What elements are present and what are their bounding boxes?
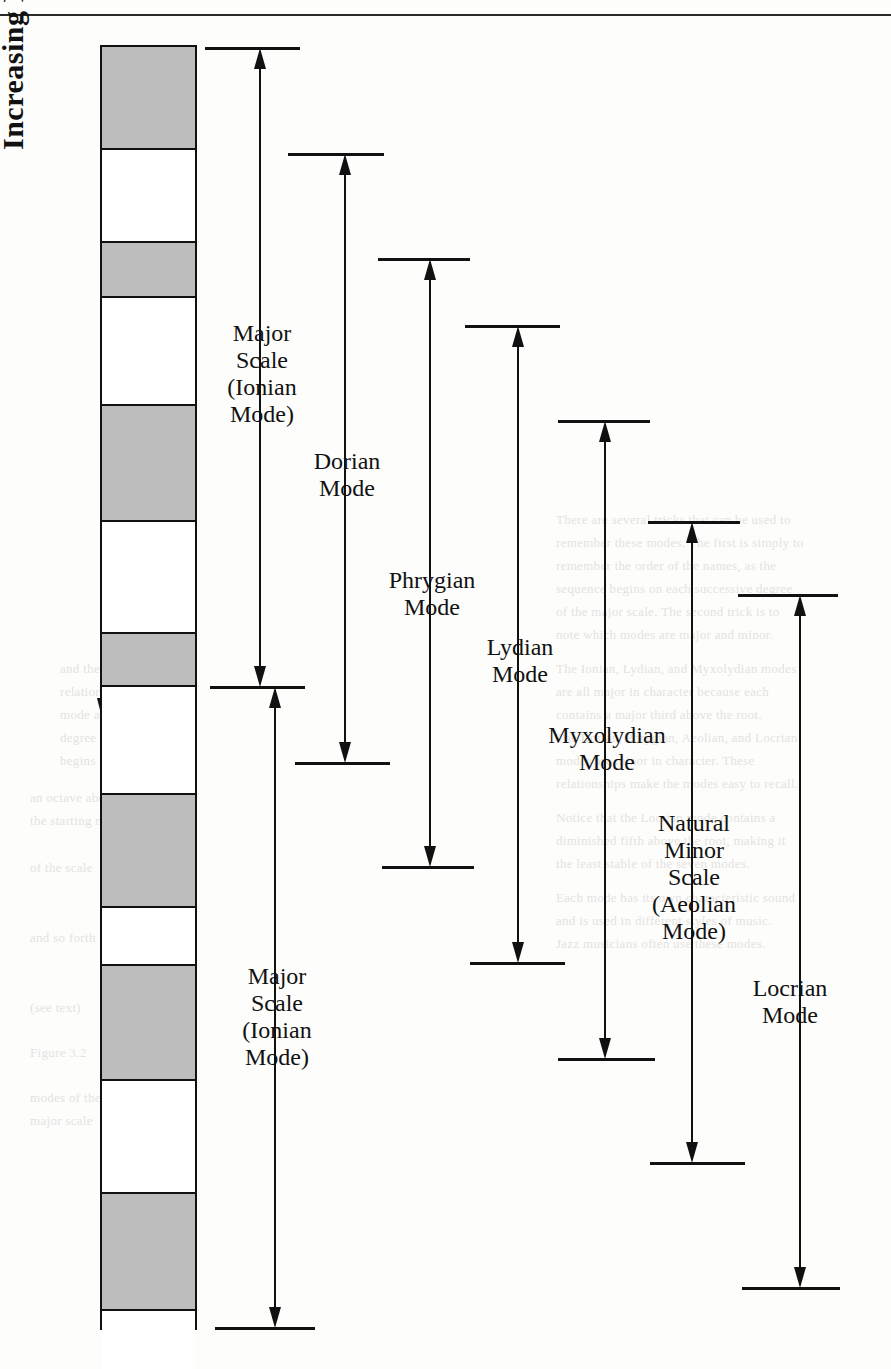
bleed-text-line: contains a major third above the root.	[556, 707, 762, 723]
mode-span-arrow	[789, 594, 811, 1289]
bleed-text-line: and so forth	[30, 930, 96, 946]
mode-label-line: Scale	[604, 864, 784, 891]
mode-label-line: Mode	[342, 594, 522, 621]
mode-label-line: (Ionian	[187, 1017, 367, 1044]
mode-label-line: Scale	[187, 990, 367, 1017]
mode-label-line: (Ionian	[172, 374, 352, 401]
mode-label-line: Scale	[172, 347, 352, 374]
ladder-segment	[102, 908, 195, 966]
ladder-segment	[102, 150, 195, 243]
mode-label: MajorScale(IonianMode)	[187, 963, 367, 1071]
mode-label: MyxolydianMode	[517, 722, 697, 776]
bleed-text-line: relationships make the modes easy to rec…	[556, 776, 798, 792]
bleed-text-line: of the major scale. The second trick is …	[556, 604, 780, 620]
mode-span-arrow	[419, 258, 441, 868]
mode-label-line: Minor	[604, 837, 784, 864]
ladder-segment	[102, 1081, 195, 1194]
bleed-text-line: (see text)	[30, 1000, 81, 1016]
bleed-text-line: modes of the	[30, 1090, 101, 1106]
mode-label-line: Mode	[700, 1002, 880, 1029]
mode-label: NaturalMinorScale(AeolianMode)	[604, 810, 784, 944]
ladder-segment	[102, 795, 195, 908]
mode-label-line: Major	[172, 320, 352, 347]
mode-label-line: Natural	[604, 810, 784, 837]
mode-label-line: Locrian	[700, 975, 880, 1002]
mode-label: MajorScale(IonianMode)	[172, 320, 352, 428]
mode-label-line: Dorian	[257, 448, 437, 475]
ladder-segment	[102, 1311, 195, 1369]
ladder-segment	[102, 687, 195, 795]
bleed-text-line: Figure 3.2	[30, 1045, 86, 1061]
mode-label-line: Mode)	[172, 401, 352, 428]
mode-label-line: Mode	[430, 661, 610, 688]
bleed-text-line: remember the order of the names, as the	[556, 558, 776, 574]
mode-top-tick	[738, 594, 838, 597]
mode-label-line: Phrygian	[342, 567, 522, 594]
mode-label: LocrianMode	[700, 975, 880, 1029]
ladder-segment	[102, 47, 195, 150]
bleed-text-line: major scale	[30, 1113, 93, 1129]
ladder-segment	[102, 1194, 195, 1311]
mode-label: DorianMode	[257, 448, 437, 502]
mode-label-line: (Aeolian	[604, 891, 784, 918]
bleed-text-line: of the scale	[30, 860, 93, 876]
pitch-axis-label: Increasing Pitch	[0, 0, 30, 150]
mode-label-line: Mode	[517, 749, 697, 776]
mode-label-line: Mode)	[604, 918, 784, 945]
mode-label-line: Myxolydian	[517, 722, 697, 749]
mode-label-line: Major	[187, 963, 367, 990]
ladder-segment	[102, 634, 195, 687]
page-rule	[0, 14, 891, 16]
pitch-ladder	[100, 45, 197, 1330]
mode-label: LydianMode	[430, 634, 610, 688]
ladder-segment	[102, 966, 195, 1081]
mode-label: PhrygianMode	[342, 567, 522, 621]
ladder-segment	[102, 522, 195, 634]
ladder-segment	[102, 243, 195, 298]
mode-label-line: Lydian	[430, 634, 610, 661]
mode-label-line: Mode)	[187, 1044, 367, 1071]
mode-label-line: Mode	[257, 475, 437, 502]
bleed-text-line: There are several tricks that can be use…	[556, 512, 791, 528]
